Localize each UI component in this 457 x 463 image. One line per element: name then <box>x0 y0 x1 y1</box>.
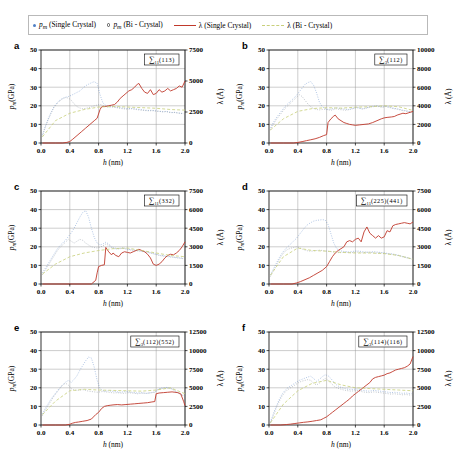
ytick-left-b: 50 <box>258 46 266 54</box>
legend-entry-pm-single: pm (Single Crystal) <box>33 20 96 30</box>
xtick-c: 1.6 <box>152 288 161 296</box>
x-axis-title-e: h (nm) <box>103 440 124 449</box>
ytick-left-d: 50 <box>258 187 266 195</box>
panel-d: d0.00.40.81.21.62.0010203040500150030004… <box>228 179 456 321</box>
ytick-right-f: 7500 <box>417 366 432 374</box>
xtick-e: 0.8 <box>94 429 103 437</box>
y-axis-title-left-d: pm(GPa) <box>235 224 245 251</box>
xtick-a: 0.0 <box>37 147 46 155</box>
ytick-left-e: 30 <box>30 366 38 374</box>
xtick-c: 0.8 <box>94 288 103 296</box>
ytick-right-c: 4500 <box>189 225 204 233</box>
ytick-right-a: 7500 <box>189 46 204 54</box>
y-axis-title-left-e: pm(GPa) <box>7 365 17 392</box>
ytick-left-d: 30 <box>258 225 266 233</box>
xtick-f: 1.6 <box>380 429 389 437</box>
ytick-right-b: 0 <box>417 139 421 147</box>
ytick-right-b: 8000 <box>417 65 432 73</box>
xtick-a: 1.2 <box>123 147 132 155</box>
panel-f: f0.00.40.81.21.62.0010203040500250050007… <box>228 320 456 462</box>
ytick-right-e: 2500 <box>189 403 204 411</box>
ytick-left-b: 10 <box>258 121 266 129</box>
panel-a: a0.00.40.81.21.62.0010203040500250050007… <box>0 38 228 180</box>
ytick-right-f: 5000 <box>417 384 432 392</box>
ytick-left-f: 10 <box>258 403 266 411</box>
legend-label-pm-single: pm (Single Crystal) <box>39 20 96 30</box>
ytick-right-f: 12500 <box>417 328 435 336</box>
ytick-right-b: 10000 <box>417 46 435 54</box>
xtick-a: 0.4 <box>65 147 74 155</box>
ytick-right-e: 12500 <box>189 328 207 336</box>
ytick-left-b: 0 <box>262 139 266 147</box>
xtick-e: 0.4 <box>65 429 74 437</box>
x-axis-title-a: h (nm) <box>103 158 124 167</box>
ytick-right-c: 6000 <box>189 206 204 214</box>
ytick-left-a: 30 <box>30 84 38 92</box>
plot-f: 0.00.40.81.21.62.00102030405002500500075… <box>228 320 456 462</box>
xtick-b: 2.0 <box>409 147 418 155</box>
filled-dot-marker-icon <box>33 24 36 27</box>
ytick-right-b: 2000 <box>417 121 432 129</box>
ytick-left-a: 0 <box>34 139 38 147</box>
xtick-b: 0.8 <box>322 147 331 155</box>
ytick-left-c: 20 <box>30 243 38 251</box>
xtick-f: 0.8 <box>322 429 331 437</box>
plot-d: 0.00.40.81.21.62.00102030405001500300045… <box>228 179 456 321</box>
ytick-left-e: 20 <box>30 384 38 392</box>
legend-label-lambda-single: λ (Single Crystal) <box>199 21 251 30</box>
xtick-e: 0.0 <box>37 429 46 437</box>
xtick-d: 1.6 <box>380 288 389 296</box>
dashed-line-swatch-icon <box>262 25 284 26</box>
y-axis-title-left-c: pm(GPa) <box>7 224 17 251</box>
y-axis-title-left-f: pm(GPa) <box>235 365 245 392</box>
ytick-left-a: 20 <box>30 102 38 110</box>
y-axis-title-right-b: λ (Å) <box>444 88 453 104</box>
xtick-c: 1.2 <box>123 288 132 296</box>
xtick-c: 2.0 <box>181 288 190 296</box>
ytick-right-a: 0 <box>189 139 193 147</box>
plot-e: 0.00.40.81.21.62.00102030405002500500075… <box>0 320 228 462</box>
solid-line-swatch-icon <box>174 25 196 26</box>
ytick-right-e: 7500 <box>189 366 204 374</box>
xtick-f: 0.0 <box>265 429 274 437</box>
ytick-right-f: 0 <box>417 421 421 429</box>
xtick-d: 0.4 <box>293 288 302 296</box>
y-axis-title-right-d: λ (Å) <box>444 229 453 245</box>
legend-entry-pm-bicrystal: pm (Bi - Crystal) <box>107 20 163 30</box>
ytick-right-e: 10000 <box>189 347 207 355</box>
xtick-c: 0.0 <box>37 288 46 296</box>
figure-root: pm (Single Crystal) pm (Bi - Crystal) λ … <box>0 0 457 463</box>
hollow-circle-marker-icon <box>107 23 110 26</box>
figure-legend: pm (Single Crystal) pm (Bi - Crystal) λ … <box>28 15 428 35</box>
ytick-left-d: 0 <box>262 280 266 288</box>
xtick-e: 1.2 <box>123 429 132 437</box>
ytick-left-c: 50 <box>30 187 38 195</box>
ytick-right-d: 6000 <box>417 206 432 214</box>
x-axis-title-c: h (nm) <box>103 299 124 308</box>
ytick-left-e: 50 <box>30 328 38 336</box>
ytick-right-b: 6000 <box>417 84 432 92</box>
y-axis-title-right-c: λ (Å) <box>216 229 225 245</box>
ytick-left-d: 10 <box>258 262 266 270</box>
ytick-right-e: 5000 <box>189 384 204 392</box>
ytick-left-f: 20 <box>258 384 266 392</box>
panel-grid: a0.00.40.81.21.62.0010203040500250050007… <box>0 38 457 463</box>
xtick-d: 2.0 <box>409 288 418 296</box>
ytick-left-f: 30 <box>258 366 266 374</box>
xtick-a: 1.6 <box>152 147 161 155</box>
ytick-right-c: 1500 <box>189 262 204 270</box>
ytick-right-c: 0 <box>189 280 193 288</box>
y-axis-title-right-e: λ (Å) <box>216 370 225 386</box>
ytick-left-f: 40 <box>258 347 266 355</box>
xtick-b: 0.0 <box>265 147 274 155</box>
ytick-left-c: 0 <box>34 280 38 288</box>
ytick-left-c: 30 <box>30 225 38 233</box>
xtick-e: 2.0 <box>181 429 190 437</box>
xtick-a: 2.0 <box>181 147 190 155</box>
plot-c: 0.00.40.81.21.62.00102030405001500300045… <box>0 179 228 321</box>
ytick-right-c: 7500 <box>189 187 204 195</box>
ytick-right-c: 3000 <box>189 243 204 251</box>
ytick-right-d: 0 <box>417 280 421 288</box>
ytick-right-f: 2500 <box>417 403 432 411</box>
xtick-f: 0.4 <box>293 429 302 437</box>
